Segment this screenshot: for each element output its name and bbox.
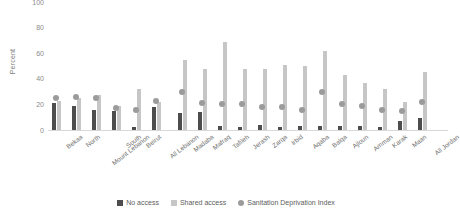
x-axis-baseline (48, 130, 448, 131)
bar-no-access (378, 127, 382, 130)
x-axis-label: Jerash (251, 133, 271, 151)
y-axis-title: Percent (9, 32, 16, 92)
bar-no-access (278, 127, 282, 130)
bar-group (298, 2, 310, 130)
bar-no-access (92, 110, 96, 130)
bar-no-access (418, 118, 422, 130)
y-axis-tick: 60 (22, 50, 44, 57)
bar-no-access (298, 126, 302, 130)
bar-group (112, 2, 124, 130)
x-axis-label: Aqaba (311, 133, 330, 150)
x-axis-label: Tafileh (231, 133, 250, 150)
x-axis-label: All Jordan (433, 133, 460, 156)
bar-group (198, 2, 210, 130)
y-axis-tick: 100 (22, 0, 44, 6)
bar-no-access (52, 103, 56, 130)
bar-shared-access (203, 69, 207, 130)
legend-item-shared-access[interactable]: Shared access (171, 199, 226, 206)
chart-legend: No accessShared accessSanitation Depriva… (0, 199, 452, 206)
bar-group (318, 2, 330, 130)
square-dark-icon (117, 200, 123, 206)
marker-sanitation-deprivation-index (259, 104, 265, 110)
x-axis-label: Bekaa (65, 133, 84, 150)
bar-no-access (398, 121, 402, 130)
bar-no-access (72, 106, 76, 130)
bar-group (278, 2, 290, 130)
bar-group (52, 2, 64, 130)
bar-group (92, 2, 104, 130)
marker-sanitation-deprivation-index (73, 94, 79, 100)
bar-shared-access (157, 102, 161, 130)
y-axis-tick: 40 (22, 75, 44, 82)
x-axis-label: Zarqa (271, 133, 289, 149)
y-axis-tick: 80 (22, 24, 44, 31)
marker-sanitation-deprivation-index (319, 89, 325, 95)
bar-no-access (238, 127, 242, 130)
marker-sanitation-deprivation-index (279, 104, 285, 110)
bar-group (218, 2, 230, 130)
marker-sanitation-deprivation-index (179, 89, 185, 95)
bar-no-access (112, 111, 116, 130)
marker-sanitation-deprivation-index (419, 99, 425, 105)
x-axis-label: North (84, 133, 101, 148)
marker-sanitation-deprivation-index (299, 107, 305, 113)
legend-item-sdi[interactable]: Sanitation Deprivation Index (238, 199, 335, 206)
bar-group (132, 2, 144, 130)
bar-shared-access (57, 101, 61, 130)
bar-shared-access (403, 102, 407, 130)
x-axis-label: Karak (391, 133, 409, 149)
bar-group (178, 2, 190, 130)
marker-sanitation-deprivation-index (153, 98, 159, 104)
bar-shared-access (97, 95, 101, 130)
bar-shared-access (283, 65, 287, 130)
bar-group (378, 2, 390, 130)
legend-label: No access (126, 199, 159, 206)
bar-no-access (178, 113, 182, 130)
y-axis-tick: 20 (22, 101, 44, 108)
bar-shared-access (263, 69, 267, 130)
x-axis-label: Maan (410, 133, 427, 149)
bar-no-access (152, 107, 156, 130)
bar-group (358, 2, 370, 130)
bar-shared-access (243, 69, 247, 130)
bar-shared-access (77, 98, 81, 130)
bar-no-access (258, 125, 262, 130)
bar-group (258, 2, 270, 130)
x-axis-label: Irbid (290, 133, 304, 146)
bar-no-access (358, 126, 362, 130)
bar-shared-access (303, 66, 307, 130)
legend-label: Sanitation Deprivation Index (247, 199, 335, 206)
square-light-icon (171, 200, 177, 206)
marker-sanitation-deprivation-index (133, 107, 139, 113)
bar-group (338, 2, 350, 130)
bar-no-access (338, 126, 342, 130)
bar-shared-access (223, 42, 227, 130)
marker-sanitation-deprivation-index (53, 95, 59, 101)
bar-no-access (218, 126, 222, 130)
bar-no-access (198, 112, 202, 130)
bar-group (418, 2, 430, 130)
marker-sanitation-deprivation-index (359, 103, 365, 109)
marker-sanitation-deprivation-index (93, 95, 99, 101)
y-axis-tick: 0 (22, 127, 44, 134)
legend-item-no-access[interactable]: No access (117, 199, 159, 206)
marker-sanitation-deprivation-index (399, 108, 405, 114)
bar-group (238, 2, 250, 130)
x-axis-label: Balqa (331, 133, 348, 149)
legend-label: Shared access (180, 199, 226, 206)
bar-group (152, 2, 164, 130)
x-axis-label: Mafraq (211, 133, 231, 151)
x-axis-label: Ajloun (351, 133, 370, 150)
bar-group (72, 2, 84, 130)
circle-gray-icon (238, 200, 244, 206)
marker-sanitation-deprivation-index (379, 107, 385, 113)
bar-no-access (318, 126, 322, 130)
bar-no-access (132, 127, 136, 130)
bar-shared-access (183, 60, 187, 130)
bar-group (398, 2, 410, 130)
plot-area (48, 2, 448, 130)
